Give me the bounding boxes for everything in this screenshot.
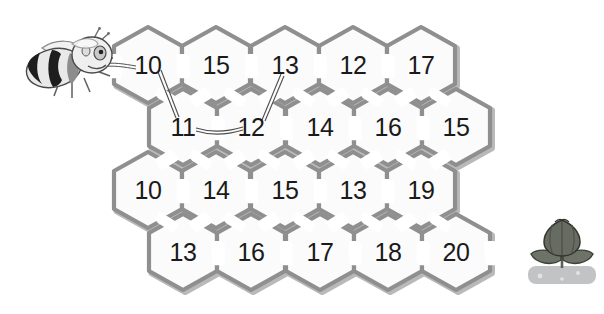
comb-gate xyxy=(247,181,258,203)
honeycomb-maze-canvas: 1015131217111214161510141513191316171820 xyxy=(0,0,604,314)
comb-gate xyxy=(316,56,327,78)
flower-icon xyxy=(522,216,602,294)
comb-cell-number[interactable]: 16 xyxy=(238,240,265,265)
comb-gate xyxy=(351,118,362,140)
comb-cell-number[interactable]: 20 xyxy=(443,240,470,265)
comb-gate xyxy=(316,181,327,203)
comb-cell-number[interactable]: 15 xyxy=(443,115,470,140)
comb-cell-number[interactable]: 13 xyxy=(170,240,197,265)
comb-cell-number[interactable]: 10 xyxy=(135,53,162,78)
comb-gate xyxy=(419,118,430,140)
comb-gate xyxy=(179,56,190,78)
comb-cell-number[interactable]: 17 xyxy=(307,240,334,265)
comb-cell-number[interactable]: 12 xyxy=(340,53,367,78)
comb-gate xyxy=(282,118,293,140)
bee-icon xyxy=(16,26,122,104)
comb-cell-number[interactable]: 11 xyxy=(171,115,196,140)
comb-gate xyxy=(487,243,498,265)
comb-cell-number[interactable]: 13 xyxy=(272,53,299,78)
comb-cell-number[interactable]: 15 xyxy=(203,53,230,78)
comb-cell-layer xyxy=(109,27,498,292)
comb-cell-number[interactable]: 15 xyxy=(272,178,299,203)
comb-cell-number[interactable]: 14 xyxy=(307,115,334,140)
comb-gate xyxy=(384,56,395,78)
comb-gate xyxy=(384,181,395,203)
comb-cell-number[interactable]: 18 xyxy=(375,240,402,265)
comb-gate xyxy=(179,181,190,203)
comb-gate xyxy=(214,243,225,265)
comb-gate xyxy=(351,243,362,265)
comb-cell-number[interactable]: 10 xyxy=(135,178,162,203)
comb-cell-number[interactable]: 14 xyxy=(203,178,230,203)
comb-cell-number[interactable]: 19 xyxy=(408,178,435,203)
comb-gate xyxy=(214,118,225,140)
comb-gate xyxy=(282,243,293,265)
comb-gate xyxy=(247,56,258,78)
comb-cell-number[interactable]: 13 xyxy=(340,178,367,203)
comb-gate xyxy=(419,243,430,265)
comb-cell-number[interactable]: 16 xyxy=(375,115,402,140)
comb-cell-number[interactable]: 12 xyxy=(238,115,265,140)
comb-cell-number[interactable]: 17 xyxy=(408,53,435,78)
